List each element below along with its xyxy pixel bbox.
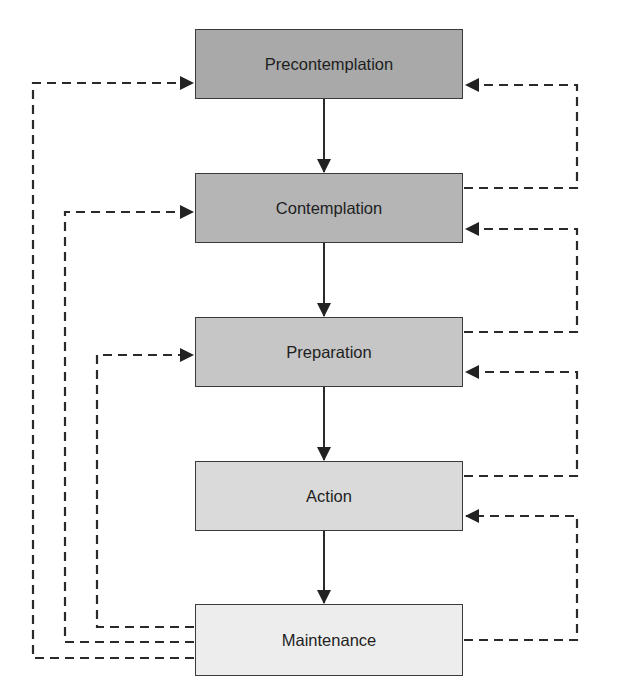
relapse-arrow-con-to-pre	[464, 85, 577, 188]
stage-preparation: Preparation	[195, 317, 463, 387]
stage-label: Action	[306, 487, 352, 506]
relapse-arrow-prep-to-con	[464, 229, 577, 332]
relapse-arrow-maint-to-prep	[97, 355, 194, 627]
relapse-arrow-maint-to-con	[65, 212, 194, 642]
stage-label: Preparation	[286, 343, 371, 362]
stage-label: Maintenance	[282, 631, 376, 650]
stage-precontemplation: Precontemplation	[195, 29, 463, 99]
stage-label: Contemplation	[276, 199, 382, 218]
stage-action: Action	[195, 461, 463, 531]
relapse-arrow-maint-to-action	[464, 516, 577, 640]
stage-label: Precontemplation	[265, 55, 393, 74]
stage-maintenance: Maintenance	[195, 604, 463, 676]
relapse-arrow-maint-to-pre	[33, 83, 194, 658]
stage-contemplation: Contemplation	[195, 173, 463, 243]
relapse-arrow-action-to-prep	[464, 372, 577, 476]
